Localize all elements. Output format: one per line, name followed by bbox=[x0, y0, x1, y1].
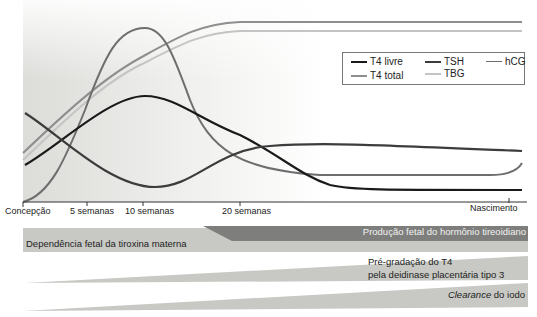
iodine-clearance-label: Clearance do iodo bbox=[448, 289, 525, 300]
maternal-dependence-label: Dependência fetal da tiroxina materna bbox=[26, 238, 187, 249]
legend-swatch bbox=[486, 61, 502, 63]
legend-label: hCG bbox=[505, 56, 526, 67]
legend-swatch bbox=[425, 61, 441, 63]
legend-swatch bbox=[351, 75, 367, 77]
legend-label: T4 total bbox=[370, 70, 403, 81]
clearance-italic-word: Clearance bbox=[448, 289, 491, 300]
legend-label: T4 livre bbox=[370, 56, 403, 67]
legend-item-tbg: TBG bbox=[425, 68, 465, 79]
legend-label: TSH bbox=[444, 56, 464, 67]
deiodinase-label-line2: pela deidinase placentária tipo 3 bbox=[368, 269, 504, 280]
legend-swatch bbox=[351, 61, 367, 63]
tick-label-10-weeks: 10 semanas bbox=[125, 206, 174, 216]
tick-label-conception: Concepção bbox=[5, 206, 51, 216]
legend-item-t4-livre: T4 livre bbox=[351, 56, 403, 67]
tick-label-5-weeks: 5 semanas bbox=[70, 206, 114, 216]
tick-label-birth: Nascimento bbox=[470, 203, 518, 213]
tick-label-20-weeks: 20 semanas bbox=[222, 206, 271, 216]
legend-swatch bbox=[425, 73, 441, 75]
legend-item-tsh: TSH bbox=[425, 56, 464, 67]
chart-legend: T4 livre TSH hCG T4 total TBG bbox=[342, 52, 525, 85]
legend-item-hcg: hCG bbox=[486, 56, 526, 67]
clearance-rest-text: do iodo bbox=[491, 289, 525, 300]
legend-label: TBG bbox=[444, 68, 465, 79]
fetal-production-label: Produção fetal do hormônio tireoidiano bbox=[363, 226, 526, 237]
legend-item-t4-total: T4 total bbox=[351, 70, 403, 81]
deiodinase-label-line1: Pré-gradação do T4 bbox=[368, 256, 452, 267]
